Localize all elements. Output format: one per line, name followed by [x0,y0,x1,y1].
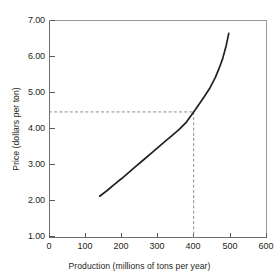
supply-curve-chart: 7.00 6.00 5.00 4.00 3.00 2.00 1.00 0 100… [0,0,279,280]
y-axis-title: Price (dollars per ton) [9,20,23,238]
supply-curve-path [100,33,229,196]
x-axis-title: Production (millions of tons per year) [0,261,279,271]
curve-layer [0,0,279,280]
